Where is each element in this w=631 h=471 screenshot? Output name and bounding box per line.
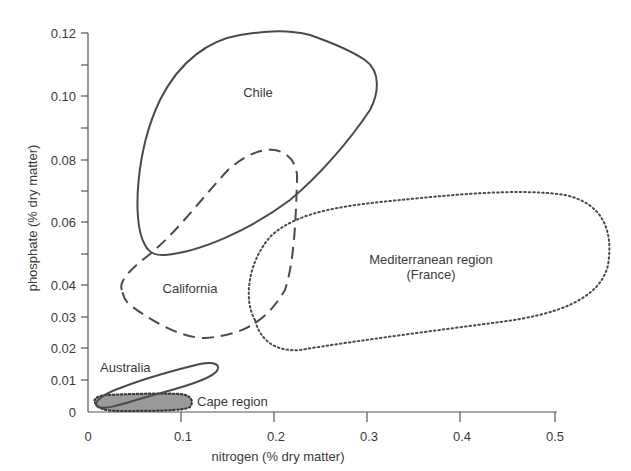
y-tick-0.12: 0.12 [51,26,76,41]
label-california: California [163,281,219,296]
y-tick-0.04: 0.04 [51,278,76,293]
x-tick-0.4: 0.4 [453,429,471,444]
region-cape [94,394,191,411]
x-tick-labels: 0 0.1 0.2 0.3 0.4 0.5 [84,429,564,444]
y-tick-labels: 0.12 0.10 0.08 0.06 0.04 0.03 0.02 0.01 … [51,26,76,420]
x-tick-0.1: 0.1 [174,429,192,444]
y-tick-0.02: 0.02 [51,341,76,356]
y-tick-0.06: 0.06 [51,215,76,230]
x-axis-title: nitrogen (% dry matter) [212,449,345,464]
y-tick-0.03: 0.03 [51,310,76,325]
y-axis-title: phosphate (% dry matter) [25,145,40,292]
region-chile [137,31,376,255]
x-tick-0.2: 0.2 [267,429,285,444]
label-australia: Australia [100,360,151,375]
label-mediterranean-line2: (France) [406,267,455,282]
axes [81,33,557,422]
label-chile: Chile [243,85,273,100]
y-tick-0: 0 [69,405,76,420]
x-tick-0.5: 0.5 [546,429,564,444]
y-tick-0.01: 0.01 [51,373,76,388]
chart-svg: 0.12 0.10 0.08 0.06 0.04 0.03 0.02 0.01 … [0,0,631,471]
label-mediterranean-line1: Mediterranean region [369,252,493,267]
label-cape: Cape region [197,394,268,409]
x-tick-0: 0 [84,429,91,444]
y-tick-0.08: 0.08 [51,153,76,168]
chart: 0.12 0.10 0.08 0.06 0.04 0.03 0.02 0.01 … [0,0,631,471]
x-tick-0.3: 0.3 [360,429,378,444]
y-tick-0.10: 0.10 [51,89,76,104]
